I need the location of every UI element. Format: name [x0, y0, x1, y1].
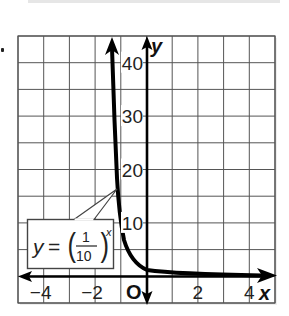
y-tick-label: 40	[122, 53, 143, 74]
origin-label: O	[126, 281, 142, 303]
x-tick-label: −2	[81, 282, 103, 303]
y-tick-label: 30	[122, 106, 143, 127]
x-tick-label: 2	[193, 282, 204, 303]
y-axis-label: y	[150, 35, 163, 57]
x-tick-label: 4	[244, 282, 255, 303]
x-tick-label: −4	[30, 282, 52, 303]
left-paren: (	[68, 225, 76, 262]
equation-lhs: y	[31, 235, 45, 258]
equation-exponent: x	[105, 226, 112, 238]
fraction-denominator: 10	[76, 248, 92, 264]
y-tick-label: 20	[122, 160, 143, 181]
exponential-graph: −4−224 10203040 y x O y = ( ) 1 10 x	[0, 0, 289, 316]
y-tick-label: 10	[122, 213, 143, 234]
fraction-numerator: 1	[82, 229, 90, 245]
equation-equals: =	[48, 235, 60, 258]
x-axis-label: x	[258, 282, 271, 304]
